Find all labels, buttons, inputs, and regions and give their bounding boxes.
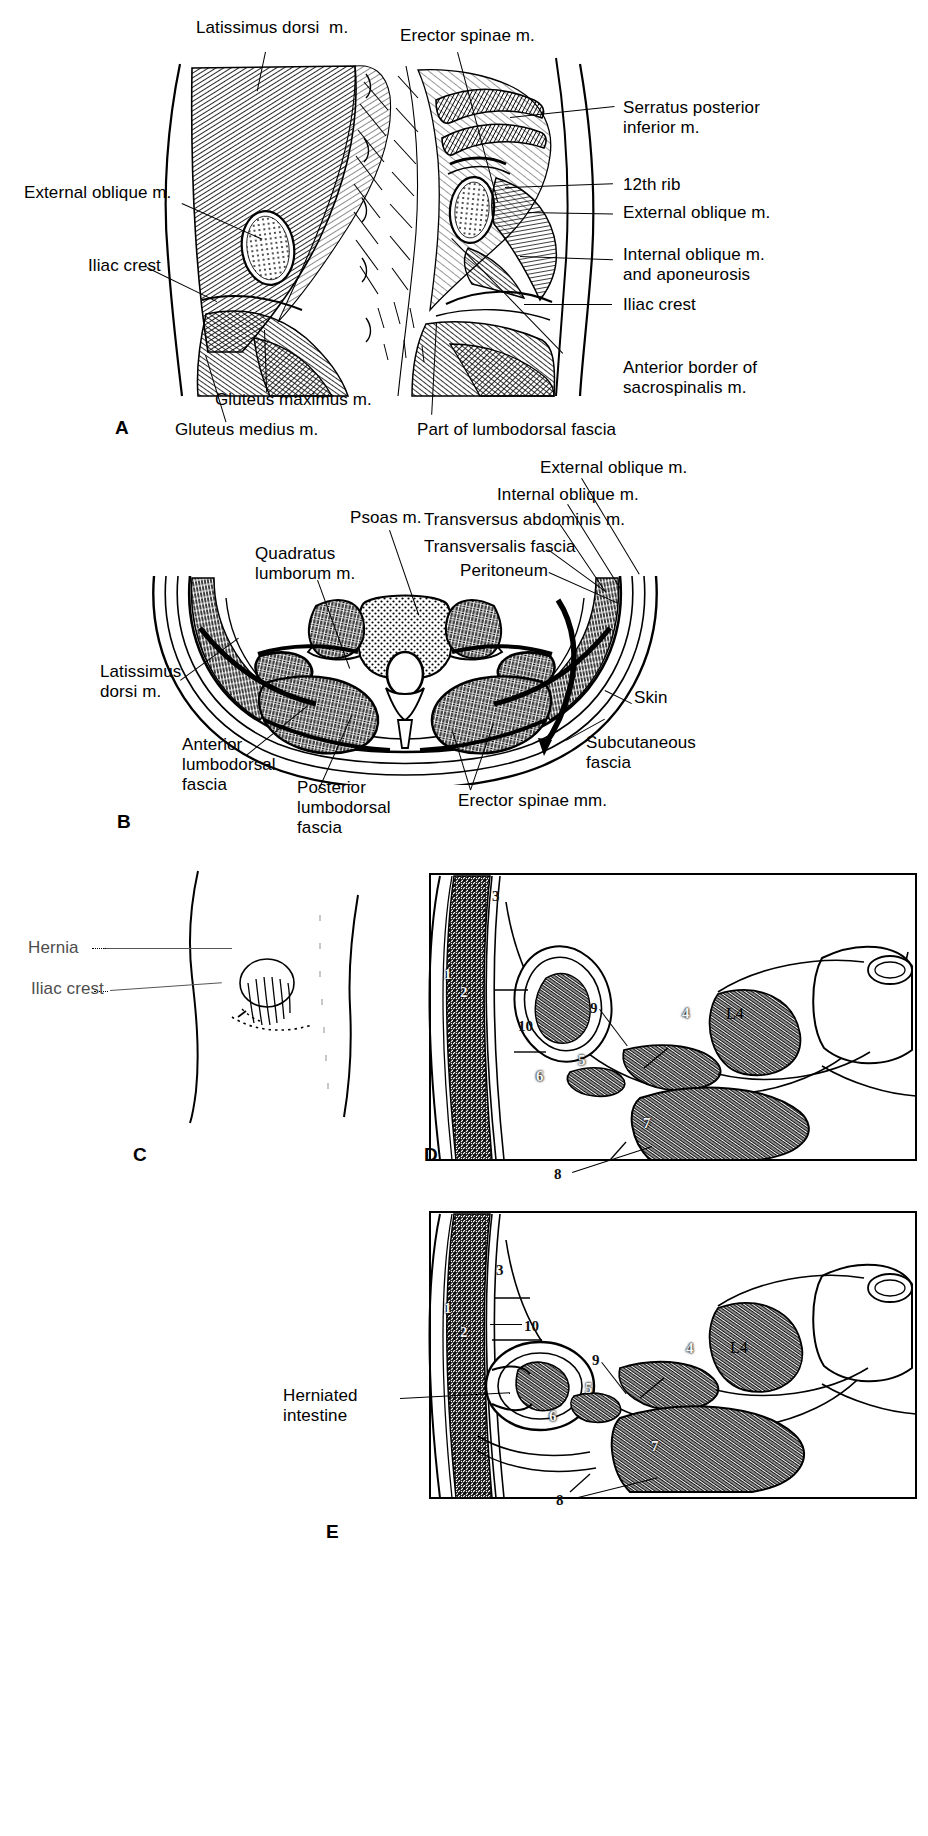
panel-e-artwork [418,1200,928,1500]
panel-e-number-1: 1 [444,1300,452,1317]
panel-d-number-4: 4 [682,1005,690,1022]
leader-hernia-c-dash [92,948,106,949]
label-12th-rib: 12th rib [623,175,681,195]
panel-e-number-3: 3 [496,1262,504,1279]
label-subcutaneous-fascia-b: Subcutaneous fascia [586,733,696,773]
label-internal-oblique-b: Internal oblique m. [497,485,639,505]
label-iliac-crest-left: Iliac crest [88,256,161,276]
label-latissimus-dorsi-a: Latissimus dorsi m. [196,18,348,38]
panel-letter-b: B [117,811,131,833]
panel-letter-c: C [133,1144,147,1166]
label-gluteus-maximus: Gluteus maximus m. [215,390,372,410]
panel-d-number-9: 9 [590,1000,598,1017]
panel-letter-a: A [115,417,129,439]
label-psoas-b: Psoas m. [350,508,422,528]
panel-letter-d: D [424,1144,438,1166]
label-herniated-intestine: Herniated intestine [283,1386,358,1426]
leader-e-10 [490,1324,522,1325]
panel-d-number-2: 2 [460,984,468,1001]
panel-d-number-6: 6 [536,1068,544,1085]
figure-page: Latissimus dorsi m. Erector spinae m. Se… [0,0,928,1836]
panel-d-number-7: 7 [643,1115,651,1132]
label-quadratus-lumborum-b: Quadratus lumborum m. [255,544,355,584]
panel-d-artwork [418,862,928,1162]
label-part-of-lumbodorsal-fascia: Part of lumbodorsal fascia [417,420,616,440]
panel-e-number-5: 5 [585,1380,593,1397]
panel-letter-e: E [326,1521,339,1543]
label-transversus-abdominis-b: Transversus abdominis m. [424,510,625,530]
panel-e-number-6: 6 [549,1408,557,1425]
label-internal-oblique-aponeurosis: Internal oblique m. and aponeurosis [623,245,765,285]
panel-d-number-1: 1 [444,966,452,983]
label-external-oblique-left: External oblique m. [24,183,171,203]
panel-d-number-10: 10 [518,1018,533,1035]
panel-e-vertebra-label: L4 [730,1338,748,1357]
panel-e-number-4: 4 [686,1340,694,1357]
label-serratus-posterior-inferior: Serratus posterior inferior m. [623,98,760,138]
label-transversalis-fascia-b: Transversalis fascia [424,537,576,557]
label-latissimus-dorsi-b: Latissimus dorsi m. [100,662,181,702]
label-posterior-lumbodorsal-fascia-b: Posterior lumbodorsal fascia [297,778,391,838]
label-anterior-border-sacrospinalis: Anterior border of sacrospinalis m. [623,358,757,398]
label-anterior-lumbodorsal-fascia-b: Anterior lumbodorsal fascia [182,735,276,795]
label-iliac-crest-c: Iliac crest [31,979,104,999]
panel-d-number-3: 3 [492,888,500,905]
label-gluteus-medius: Gluteus medius m. [175,420,318,440]
label-erector-spinae-b: Erector spinae mm. [458,791,607,811]
panel-d-vertebra-label: L4 [726,1004,744,1023]
leader-hernia-c [104,948,232,949]
label-erector-spinae-a: Erector spinae m. [400,26,535,46]
panel-e-number-9: 9 [592,1352,600,1369]
leader-iliac-crest-right [524,304,612,305]
panel-e-number-7: 7 [651,1438,659,1455]
label-external-oblique-right: External oblique m. [623,203,770,223]
panel-d-number-5: 5 [578,1052,586,1069]
panel-e-number-10: 10 [524,1318,539,1335]
label-iliac-crest-right: Iliac crest [623,295,696,315]
label-skin-b: Skin [634,688,667,708]
label-hernia-c: Hernia [28,938,79,958]
panel-d-number-8: 8 [554,1166,562,1183]
panel-e-number-2: 2 [460,1324,468,1341]
label-peritoneum-b: Peritoneum [460,561,548,581]
panel-e-number-8: 8 [556,1492,564,1509]
panel-c-artwork [120,865,410,1125]
label-external-oblique-b: External oblique m. [540,458,687,478]
